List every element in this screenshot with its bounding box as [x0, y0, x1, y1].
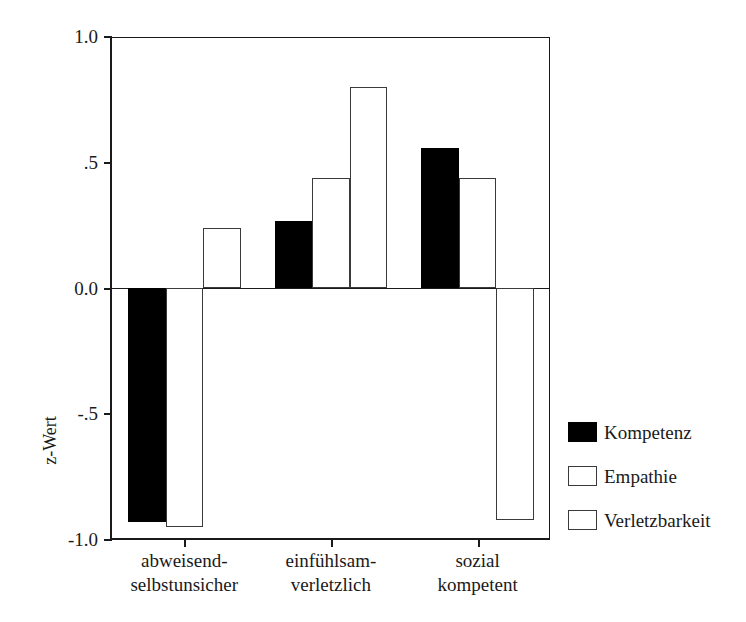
bar	[275, 221, 313, 288]
scan-edge	[0, 608, 746, 622]
x-axis-tick	[184, 539, 186, 547]
y-axis-tick-label: 1.0	[8, 27, 98, 46]
y-axis-tick-label: -1.0	[8, 530, 98, 549]
bar	[496, 288, 534, 520]
bar	[166, 288, 204, 527]
legend-item-label: Empathie	[604, 467, 677, 486]
x-axis-category-label: sozialkompetent	[378, 549, 578, 598]
legend-swatch-icon	[568, 510, 597, 530]
legend-item: Empathie	[568, 454, 746, 498]
bar	[459, 178, 497, 288]
x-axis-category-line: sozial	[378, 549, 578, 573]
y-axis-title: z-Wert	[40, 381, 61, 501]
x-axis-tick	[478, 539, 480, 547]
legend-swatch-icon	[568, 422, 597, 442]
bar	[312, 178, 350, 288]
legend-swatch-icon	[568, 466, 597, 486]
legend-item-label: Kompetenz	[604, 423, 692, 442]
legend-item: Verletzbarkeit	[568, 498, 746, 542]
y-axis-tick-label: .5	[8, 153, 98, 172]
x-axis-category-line: kompetent	[378, 573, 578, 597]
y-axis-tick-label: 0.0	[8, 279, 98, 298]
bar	[128, 288, 166, 522]
legend-item-label: Verletzbarkeit	[604, 511, 711, 530]
legend-item: Kompetenz	[568, 410, 746, 454]
bar	[203, 228, 241, 288]
bar	[350, 87, 388, 288]
bar-chart: z-Wert 1.0.50.0-.5-1.0 abweisend-selbstu…	[0, 0, 746, 622]
bar	[421, 148, 459, 288]
x-axis-tick	[331, 539, 333, 547]
y-axis-tick-label: -.5	[8, 404, 98, 423]
legend: KompetenzEmpathieVerletzbarkeit	[568, 410, 746, 542]
